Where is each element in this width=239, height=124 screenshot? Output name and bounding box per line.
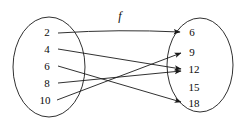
codomain-element-18: 18: [189, 97, 200, 109]
domain-element-10: 10: [40, 94, 51, 106]
codomain-element-15: 15: [189, 81, 200, 93]
domain-element-8: 8: [44, 77, 50, 89]
arrow-2-to-6: [58, 31, 180, 33]
arrow-10-to-9: [57, 53, 181, 100]
codomain-element-12: 12: [189, 63, 200, 75]
function-name-label: f: [118, 9, 121, 24]
domain-element-2: 2: [44, 26, 50, 38]
domain-element-4: 4: [44, 43, 50, 55]
function-arrow-diagram: 246810 69121518 f: [0, 0, 239, 124]
codomain-element-6: 6: [189, 26, 195, 38]
arrow-8-to-12: [58, 71, 181, 83]
codomain-element-9: 9: [189, 46, 195, 58]
arrow-6-to-18: [58, 66, 181, 102]
domain-element-6: 6: [44, 60, 50, 72]
arrow-4-to-12: [58, 49, 181, 69]
